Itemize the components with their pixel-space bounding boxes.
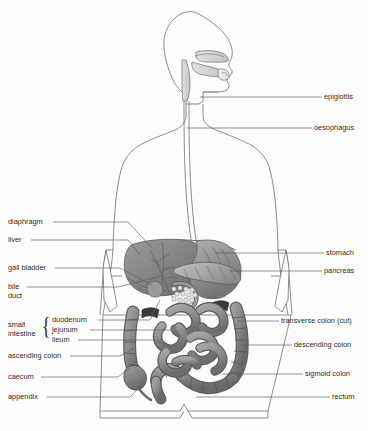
label-descending-colon: descending colon bbox=[294, 341, 351, 350]
label-jejunum-text: jejunum bbox=[52, 325, 78, 334]
label-caecum-text: caecum bbox=[8, 372, 34, 381]
label-sigmoid-colon-text: sigmoid colon bbox=[305, 369, 350, 378]
leader-liver bbox=[31, 240, 140, 255]
label-gall-bladder: gall bladder bbox=[8, 264, 46, 273]
curly-brace-icon: { bbox=[42, 313, 51, 338]
label-duodenum: duodenum bbox=[52, 316, 87, 325]
label-epiglottis: epiglottis bbox=[324, 93, 353, 102]
digestive-system-diagram: diaphragmlivergall bladderbileductduoden… bbox=[0, 0, 368, 431]
appendix-shape bbox=[139, 389, 151, 400]
label-ascending-colon-text: ascending colon bbox=[8, 351, 61, 360]
label-caecum: caecum bbox=[8, 373, 34, 382]
label-duodenum-text: duodenum bbox=[52, 315, 87, 324]
label-descending-colon-text: descending colon bbox=[294, 340, 351, 349]
anatomy-figure bbox=[0, 0, 368, 431]
label-diaphragm-text: diaphragm bbox=[8, 217, 43, 226]
label-oesophagus: oesophagus bbox=[314, 124, 354, 133]
label-ascending-colon: ascending colon bbox=[8, 352, 61, 361]
label-liver: liver bbox=[8, 236, 21, 245]
label-transverse-colon-cut: transverse colon (cut) bbox=[281, 317, 352, 326]
label-sigmoid-colon: sigmoid colon bbox=[305, 370, 350, 379]
label-appendix: appendix bbox=[8, 393, 38, 402]
label-stomach: stomach bbox=[326, 249, 354, 258]
epiglottis-shape bbox=[218, 69, 229, 80]
label-liver-text: liver bbox=[8, 235, 21, 244]
leader-caecum bbox=[41, 368, 130, 377]
upper-airway bbox=[182, 51, 229, 101]
label-ileum: ileum bbox=[52, 336, 70, 345]
label-rectum-text: rectum bbox=[332, 392, 354, 401]
small-intestine-group-label: small intestine bbox=[8, 320, 36, 338]
small-intestine-line2: intestine bbox=[8, 329, 36, 338]
label-bile-duct: bileduct bbox=[8, 283, 22, 300]
label-epiglottis-text: epiglottis bbox=[324, 92, 353, 101]
label-rectum: rectum bbox=[332, 393, 354, 402]
label-appendix-text: appendix bbox=[8, 392, 38, 401]
oesophagus-shape bbox=[184, 101, 196, 240]
label-ileum-text: ileum bbox=[52, 335, 70, 344]
label-transverse-colon-cut-text: transverse colon (cut) bbox=[281, 316, 352, 325]
label-pancreas-text: pancreas bbox=[324, 266, 354, 275]
label-jejunum: jejunum bbox=[52, 326, 78, 335]
label-diaphragm: diaphragm bbox=[8, 218, 43, 227]
label-stomach-text: stomach bbox=[326, 248, 354, 257]
caecum-shape bbox=[124, 365, 146, 390]
label-gall-bladder-text: gall bladder bbox=[8, 263, 46, 272]
label-oesophagus-text: oesophagus bbox=[314, 123, 354, 132]
small-intestine-line1: small bbox=[8, 320, 25, 329]
label-bile-duct-text2: duct bbox=[8, 291, 22, 300]
label-pancreas: pancreas bbox=[324, 267, 354, 276]
